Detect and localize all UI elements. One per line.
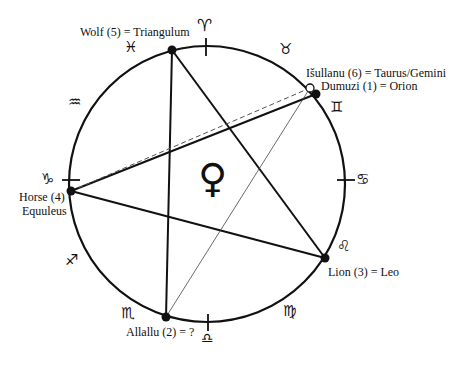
point-allallu: [162, 313, 171, 322]
sagittarius-icon: ♐: [65, 253, 78, 268]
point-lion: [321, 254, 330, 263]
gemini-icon: ♊: [330, 100, 343, 115]
aries-icon: ♈: [197, 18, 212, 33]
line-horse-dumuzi: [71, 94, 316, 191]
label-horse-line1: Horse (4): [19, 191, 65, 204]
cancer-icon: ♋: [356, 172, 369, 187]
capricorn-icon: ♑: [41, 172, 54, 187]
label-allallu: Allallu (2) = ?: [126, 326, 194, 339]
label-lion: Lion (3) = Leo: [328, 266, 399, 279]
libra-icon: ♎: [201, 331, 214, 346]
star-chart: [0, 0, 474, 365]
line-wolf-allallu: [166, 50, 172, 317]
label-dumuzi: Dumuzi (1) = Orion: [321, 80, 417, 93]
venus-icon: ♀: [198, 158, 227, 198]
line-wolf-lion: [172, 50, 325, 258]
point-horse: [67, 187, 76, 196]
label-wolf: Wolf (5) = Triangulum: [80, 26, 189, 39]
pisces-icon: ♓: [124, 40, 137, 55]
virgo-icon: ♍: [283, 304, 296, 319]
scorpio-icon: ♏: [121, 306, 134, 321]
taurus-icon: ♉: [279, 42, 292, 57]
line-allallu-isullanu: [166, 88, 310, 317]
aquarius-icon: ♒: [68, 95, 81, 110]
point-isullanu: [306, 84, 314, 92]
label-horse-line2: Equuleus: [22, 205, 67, 218]
point-wolf: [168, 46, 177, 55]
line-horse-lion: [71, 191, 325, 258]
leo-icon: ♌: [337, 239, 350, 254]
line-horse-isullanu: [71, 88, 310, 191]
